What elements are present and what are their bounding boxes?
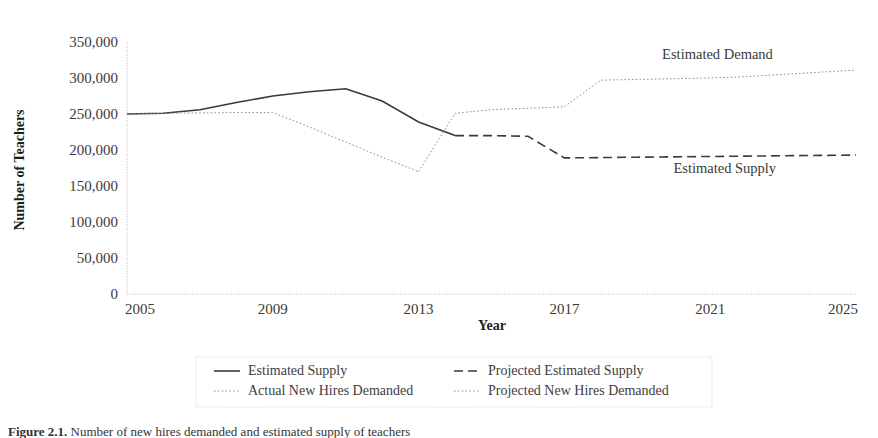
x-axis-title: Year (478, 318, 506, 333)
legend-item-label: Projected Estimated Supply (488, 363, 644, 378)
y-tick-label: 250,000 (69, 106, 118, 122)
legend-item-label: Projected New Hires Demanded (488, 383, 669, 398)
y-tick-label: 50,000 (77, 250, 118, 266)
legend-item[interactable]: Projected Estimated Supply (454, 363, 644, 378)
series-line (127, 113, 419, 172)
series-annotation: Estimated Supply (673, 160, 776, 176)
y-tick-label: 0 (111, 286, 119, 302)
series-line (127, 89, 455, 136)
y-tick-label: 200,000 (69, 142, 118, 158)
x-tick-label: 2009 (258, 301, 288, 317)
y-tick-label: 350,000 (69, 34, 118, 50)
x-tick-label: 2025 (828, 301, 858, 317)
legend-item-label: Estimated Supply (248, 363, 347, 378)
y-tick-label: 300,000 (69, 70, 118, 86)
legend-item-label: Actual New Hires Demanded (248, 383, 413, 398)
series-line (455, 136, 856, 158)
x-tick-label: 2013 (404, 301, 434, 317)
series-annotation: Estimated Demand (662, 46, 773, 62)
y-tick-label: 100,000 (69, 214, 118, 230)
x-tick-label: 2017 (549, 301, 580, 317)
data-series-group (127, 70, 856, 172)
figure-container: 050,000100,000150,000200,000250,000300,0… (0, 0, 878, 438)
y-tick-label: 150,000 (69, 178, 118, 194)
x-tick-label: 2021 (695, 301, 725, 317)
legend-item[interactable]: Actual New Hires Demanded (214, 383, 413, 398)
y-axis-title: Number of Teachers (12, 109, 27, 231)
teacher-supply-demand-line-chart: 050,000100,000150,000200,000250,000300,0… (0, 0, 878, 420)
legend-item[interactable]: Projected New Hires Demanded (454, 383, 669, 398)
legend-item[interactable]: Estimated Supply (214, 363, 347, 378)
figure-caption-text: Number of new hires demanded and estimat… (67, 424, 410, 438)
figure-caption: Figure 2.1. Number of new hires demanded… (8, 424, 410, 438)
figure-caption-number: Figure 2.1. (8, 424, 67, 438)
x-axis-tick-labels: 200520092013201720212025 (125, 301, 858, 317)
chart-legend: Estimated SupplyProjected Estimated Supp… (196, 357, 712, 407)
y-axis-tick-labels: 050,000100,000150,000200,000250,000300,0… (69, 34, 118, 302)
x-tick-label: 2005 (125, 301, 155, 317)
